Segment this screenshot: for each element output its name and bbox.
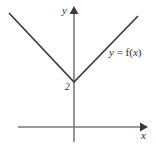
x-axis-label: x (141, 130, 146, 141)
function-label-equals: = f( (114, 46, 133, 58)
function-label: y = f(x) (109, 47, 141, 58)
y-axis-label: y (62, 5, 67, 16)
graph-canvas (0, 0, 156, 147)
y-intercept-label: 2 (65, 83, 70, 93)
graph-figure: y x 2 y = f(x) (0, 0, 156, 147)
y-axis-arrowhead (70, 6, 79, 14)
function-label-close: ) (138, 46, 142, 58)
